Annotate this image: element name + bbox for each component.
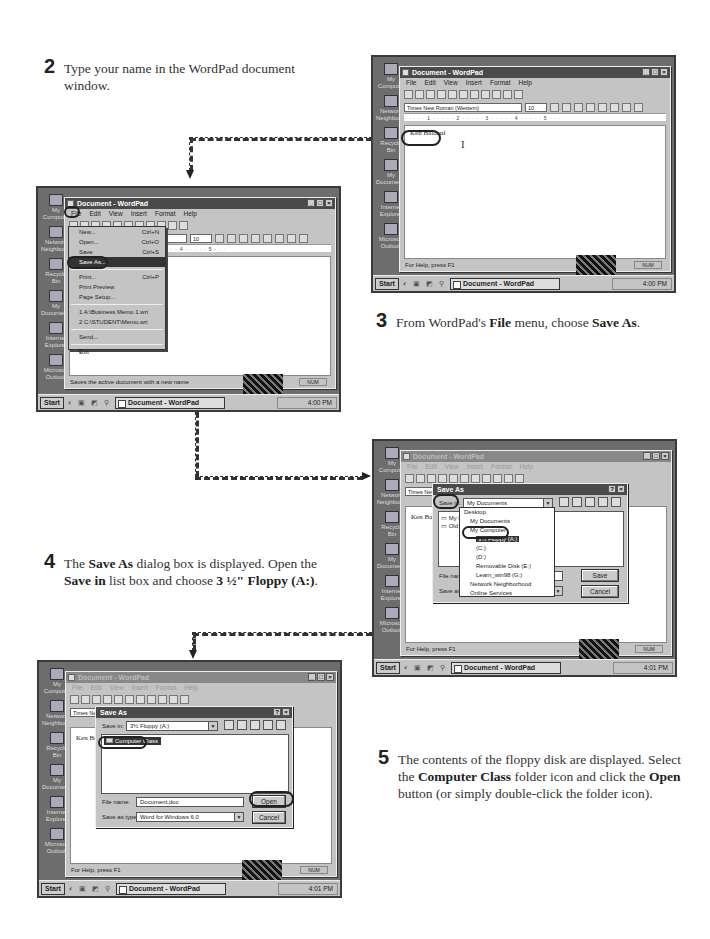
font-select[interactable]: Times New Roman (Western) [404,103,522,112]
desktop-icon[interactable] [237,720,247,730]
save-in-option[interactable]: (C:) [460,544,554,553]
menu-help[interactable]: Help [520,462,533,472]
menu-file[interactable]: File [406,78,416,88]
maximize-button[interactable]: □ [651,68,659,76]
quick-launch-icons[interactable]: ◐ ▣ ◩ ⚲ [403,280,446,288]
taskbar-wordpad-button[interactable]: Document - WordPad [450,278,560,290]
list-view-icon[interactable] [263,720,273,730]
new-icon[interactable] [404,90,413,99]
quick-launch-icons[interactable]: ◐ ▣ ◩ ⚲ [68,399,111,407]
copy-icon[interactable] [481,90,490,99]
help-button[interactable]: ? [608,485,616,493]
close-button[interactable]: × [325,199,333,207]
menu-format[interactable]: Format [490,78,511,88]
help-button[interactable]: ? [273,708,281,716]
save-in-option[interactable]: Removable Disk (E:) [460,562,554,571]
menu-format[interactable]: Format [156,683,177,693]
maximize-button[interactable]: □ [316,199,324,207]
preview-icon[interactable] [448,90,457,99]
print-icon[interactable] [437,90,446,99]
up-folder-icon[interactable] [224,720,234,730]
align-left-icon[interactable] [598,103,607,112]
menu-edit[interactable]: Edit [89,209,100,219]
menu-insert[interactable]: Insert [132,683,148,693]
menu-edit[interactable]: Edit [90,683,101,693]
file-name-input[interactable]: Document.doc [136,797,244,807]
menu-format[interactable]: Format [491,462,512,472]
menu-help[interactable]: Help [519,78,532,88]
up-folder-icon[interactable] [559,497,569,507]
start-button[interactable]: Start [375,278,399,290]
save-in-option[interactable]: My Documents [460,517,554,526]
paste-icon[interactable] [492,90,501,99]
file-menu-item[interactable]: Print...Ctrl+P [69,272,165,282]
menu-insert[interactable]: Insert [467,462,483,472]
menu-view[interactable]: View [444,78,458,88]
start-button[interactable]: Start [376,662,400,674]
file-menu-item[interactable]: Print Preview [69,282,165,292]
save-in-select[interactable]: 3½ Floppy (A:)▼ [126,721,218,731]
new-folder-icon[interactable] [585,497,595,507]
taskbar-wordpad-button[interactable]: Document - WordPad [115,397,225,409]
file-menu-item[interactable]: New...Ctrl+N [69,227,165,237]
file-menu-item[interactable]: 1 A:\Business Memo 1.wri [69,307,165,317]
menu-insert[interactable]: Insert [131,209,147,219]
minimize-button[interactable]: _ [307,199,315,207]
save-button[interactable]: Save [581,569,619,582]
start-button[interactable]: Start [40,397,64,409]
find-icon[interactable] [459,90,468,99]
menu-file[interactable]: File [72,683,82,693]
list-view-icon[interactable] [598,497,608,507]
details-view-icon[interactable] [611,497,621,507]
close-button[interactable]: × [617,485,625,493]
minimize-button[interactable]: _ [642,68,650,76]
align-center-icon[interactable] [610,103,619,112]
bullets-icon[interactable] [634,103,643,112]
save-in-option[interactable]: Desktop [460,508,554,517]
underline-icon[interactable] [574,103,583,112]
color-icon[interactable] [586,103,595,112]
start-button[interactable]: Start [41,883,65,895]
file-menu-item[interactable]: Send... [69,332,165,342]
bold-icon[interactable] [550,103,559,112]
cancel-button[interactable]: Cancel [581,585,619,598]
save-in-option[interactable]: Network Neighborhood [460,580,554,589]
menu-view[interactable]: View [445,462,459,472]
menu-view[interactable]: View [110,683,124,693]
quick-launch-icons[interactable]: ◐ ▣ ◩ ⚲ [404,664,447,672]
save-type-select[interactable]: Word for Windows 6.0▼ [136,812,244,822]
menu-file[interactable]: File [407,462,417,472]
file-menu-item[interactable]: Open...Ctrl+O [69,237,165,247]
menu-format[interactable]: Format [155,209,176,219]
file-menu-item[interactable]: Exit [69,347,165,357]
close-button[interactable]: × [282,708,290,716]
cut-icon[interactable] [470,90,479,99]
file-menu-item[interactable]: 2 C:\STUDENT\Memo.wri [69,317,165,327]
desktop-icon[interactable] [572,497,582,507]
menu-edit[interactable]: Edit [425,462,436,472]
menu-insert[interactable]: Insert [466,78,482,88]
save-in-option[interactable]: Learn_win98 (G:) [460,571,554,580]
save-in-option[interactable]: (D:) [460,553,554,562]
menu-help[interactable]: Help [185,683,198,693]
italic-icon[interactable] [562,103,571,112]
save-icon[interactable] [426,90,435,99]
align-right-icon[interactable] [622,103,631,112]
close-button[interactable]: × [660,68,668,76]
document-area[interactable]: Ken Baldauf I [404,125,666,259]
menu-edit[interactable]: Edit [424,78,435,88]
file-menu-item[interactable]: Page Setup... [69,292,165,302]
quick-launch-icons[interactable]: ◐ ▣ ◩ ⚲ [69,885,112,893]
menu-view[interactable]: View [109,209,123,219]
menu-help[interactable]: Help [184,209,197,219]
details-view-icon[interactable] [276,720,286,730]
taskbar-wordpad-button[interactable]: Document - WordPad [451,662,561,674]
taskbar-wordpad-button[interactable]: Document - WordPad [116,883,226,895]
save-in-option[interactable]: Online Services [460,589,554,598]
open-icon[interactable] [415,90,424,99]
date-icon[interactable] [514,90,523,99]
undo-icon[interactable] [503,90,512,99]
size-select[interactable]: 10 [525,103,547,112]
new-folder-icon[interactable] [250,720,260,730]
cancel-button[interactable]: Cancel [252,811,286,824]
